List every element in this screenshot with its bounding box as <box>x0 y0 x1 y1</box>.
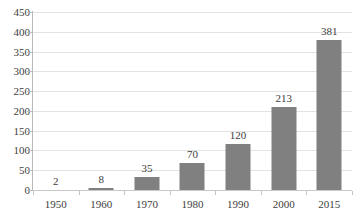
x-axis-tick-mark <box>352 191 353 195</box>
x-axis-tick-label: 1990 <box>227 198 249 210</box>
bar-slot: 213 <box>261 12 307 191</box>
x-axis-tick-mark <box>79 191 80 195</box>
bar-slot: 70 <box>170 12 216 191</box>
x-axis-tick-mark <box>215 191 216 195</box>
y-axis-tick-mark <box>27 111 32 112</box>
bar-slot: 381 <box>306 12 352 191</box>
x-axis-tick-mark <box>306 191 307 195</box>
y-axis-tick-mark <box>27 190 32 191</box>
x-axis-tick-mark <box>124 191 125 195</box>
x-axis-line <box>33 190 352 191</box>
bar-value-label: 120 <box>230 130 247 141</box>
x-axis-tick-mark <box>170 191 171 195</box>
x-axis-tick-label: 1950 <box>45 198 67 210</box>
x-axis-labels: 1950196019701980199020002015 <box>33 198 352 218</box>
bar-slot: 2 <box>33 12 79 191</box>
bar-value-label: 70 <box>187 149 198 160</box>
y-axis-tick-mark <box>27 12 32 13</box>
bar-value-label: 213 <box>275 93 292 104</box>
x-axis-tick-mark <box>261 191 262 195</box>
bar-value-label: 2 <box>53 176 59 187</box>
bar <box>134 177 159 191</box>
bar-value-label: 381 <box>321 26 338 37</box>
x-axis-tick-label: 1960 <box>90 198 112 210</box>
y-axis-tick-mark <box>27 71 32 72</box>
bar <box>226 144 251 191</box>
y-axis-tick-mark <box>27 91 32 92</box>
x-axis-tick-label: 1970 <box>136 198 158 210</box>
bar <box>180 163 205 191</box>
x-axis-tick-mark <box>33 191 34 195</box>
bar-series: 283570120213381 <box>33 12 352 191</box>
y-axis-tick-mark <box>27 32 32 33</box>
y-axis-tick-mark <box>27 52 32 53</box>
y-axis-tick-mark <box>27 150 32 151</box>
bar-value-label: 8 <box>99 174 105 185</box>
bar <box>317 40 342 191</box>
y-axis-tick-mark <box>27 170 32 171</box>
bar-slot: 120 <box>215 12 261 191</box>
bar-slot: 8 <box>79 12 125 191</box>
y-axis-tick-mark <box>27 131 32 132</box>
x-axis-tick-label: 2015 <box>318 198 340 210</box>
bar-value-label: 35 <box>141 163 152 174</box>
bar-slot: 35 <box>124 12 170 191</box>
x-axis-tick-label: 1980 <box>182 198 204 210</box>
bar-chart: 050100150200250300350400450 283570120213… <box>0 0 356 221</box>
x-axis-tick-label: 2000 <box>273 198 295 210</box>
bar <box>271 107 296 191</box>
